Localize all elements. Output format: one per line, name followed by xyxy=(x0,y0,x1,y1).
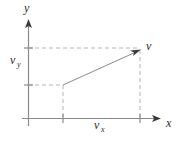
velocity-vector-line xyxy=(63,52,136,85)
velocity-vector-arrowhead xyxy=(130,50,141,57)
figure-canvas: y x v y v x v xyxy=(0,0,176,144)
vector-diagram xyxy=(0,0,176,144)
